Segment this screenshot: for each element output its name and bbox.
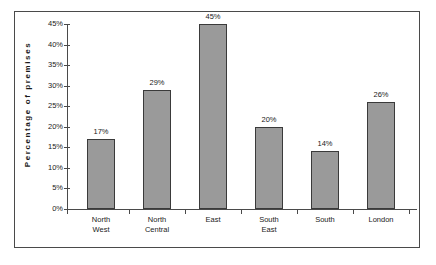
y-axis-tick-label: 35%: [48, 60, 63, 69]
category-label-line: East: [241, 225, 297, 235]
y-axis-tick-label: 45%: [48, 19, 63, 28]
y-axis-tick-mark: [64, 168, 70, 169]
y-axis-tick-mark: [64, 147, 70, 148]
bar[interactable]: [87, 139, 115, 209]
y-axis-tick-label: 20%: [48, 122, 63, 131]
y-axis-tick-mark: [64, 188, 70, 189]
bar[interactable]: [143, 90, 171, 209]
bar-value-label: 45%: [185, 12, 241, 21]
y-axis-tick-mark: [64, 65, 70, 66]
y-axis-tick-label: 15%: [48, 142, 63, 151]
category-label-line: London: [353, 215, 409, 225]
bar-group: 20%: [241, 23, 297, 209]
x-axis-tick-mark: [185, 209, 186, 214]
y-axis-tick-mark: [64, 45, 70, 46]
y-axis-title: Percentage of premises: [23, 5, 32, 205]
y-axis-tick-label: 40%: [48, 40, 63, 49]
category-label-line: West: [73, 225, 129, 235]
y-axis-tick-mark: [64, 86, 70, 87]
chart-frame: Percentage of premises 0%5%10%15%20%25%3…: [14, 11, 420, 248]
y-axis-line: [67, 24, 68, 210]
x-axis-tick-mark: [409, 209, 410, 214]
bar-value-label: 14%: [297, 139, 353, 148]
x-axis-line: [67, 209, 417, 210]
x-axis-tick-mark: [241, 209, 242, 214]
bar[interactable]: [199, 24, 227, 209]
category-label-line: South: [241, 215, 297, 225]
bar-group: 29%: [129, 23, 185, 209]
x-axis-category-label: NorthCentral: [129, 215, 185, 235]
x-axis-category-label: NorthWest: [73, 215, 129, 235]
y-axis-tick-mark: [64, 24, 70, 25]
y-axis-tick-label: 25%: [48, 101, 63, 110]
bar-value-label: 26%: [353, 90, 409, 99]
y-axis-tick-mark: [64, 127, 70, 128]
category-label-line: Central: [129, 225, 185, 235]
bar-chart-plot-area: Percentage of premises 0%5%10%15%20%25%3…: [15, 12, 421, 249]
category-label-line: East: [185, 215, 241, 225]
x-axis-tick-mark: [353, 209, 354, 214]
x-axis-category-label: East: [185, 215, 241, 225]
y-axis-tick-mark: [64, 106, 70, 107]
y-axis-tick-label: 30%: [48, 81, 63, 90]
x-axis-category-label: South: [297, 215, 353, 225]
bar-group: 14%: [297, 23, 353, 209]
y-axis-tick-label: 10%: [48, 163, 63, 172]
bar-group: 26%: [353, 23, 409, 209]
bar-value-label: 17%: [73, 127, 129, 136]
x-axis-category-label: London: [353, 215, 409, 225]
x-axis-tick-mark: [297, 209, 298, 214]
category-label-line: North: [129, 215, 185, 225]
x-axis-category-label: SouthEast: [241, 215, 297, 235]
category-label-line: North: [73, 215, 129, 225]
bar-value-label: 29%: [129, 78, 185, 87]
x-axis-tick-mark: [129, 209, 130, 214]
bar-group: 17%: [73, 23, 129, 209]
bar-group: 45%: [185, 23, 241, 209]
y-axis-tick-label: 5%: [52, 183, 63, 192]
bar-value-label: 20%: [241, 115, 297, 124]
bar[interactable]: [367, 102, 395, 209]
x-axis-tick-mark: [67, 209, 68, 214]
y-axis-tick-label: 0%: [52, 204, 63, 213]
category-label-line: South: [297, 215, 353, 225]
bar[interactable]: [255, 127, 283, 209]
bar[interactable]: [311, 151, 339, 209]
